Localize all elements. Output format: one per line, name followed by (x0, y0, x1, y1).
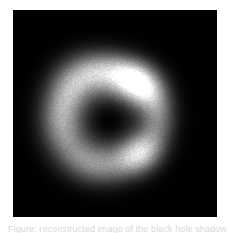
caption-strip: Figure: reconstructed image of the black… (0, 225, 230, 233)
figure-caption: Figure: reconstructed image of the black… (8, 225, 227, 233)
ring-emission-map (13, 10, 217, 217)
black-hole-image-panel (13, 10, 217, 217)
figure-root: Figure: reconstructed image of the black… (0, 0, 230, 233)
